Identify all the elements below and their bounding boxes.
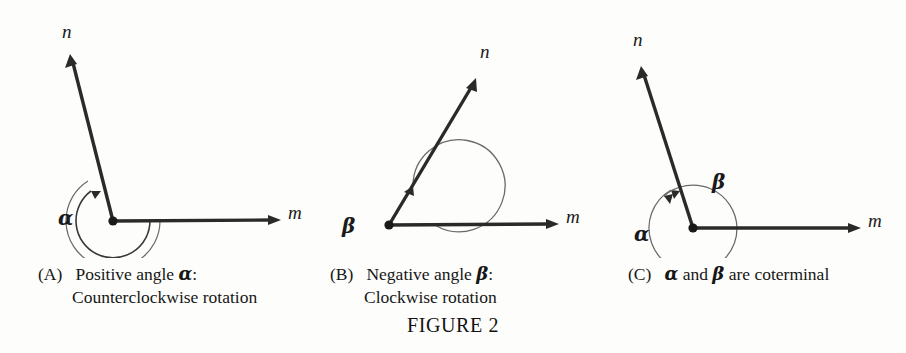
caption-c: (C) α and β are coterminal bbox=[628, 262, 829, 286]
ray-n-line bbox=[644, 75, 693, 228]
caption-b-text-post: : bbox=[488, 264, 493, 284]
caption-a-greek: α bbox=[178, 263, 192, 284]
caption-b-tag: (B) bbox=[330, 264, 353, 284]
vertex-point bbox=[384, 220, 393, 229]
arc-arrowhead-alpha bbox=[91, 191, 101, 199]
angle-label-alpha: α bbox=[58, 208, 73, 228]
caption-c-greek-beta: β bbox=[712, 263, 724, 284]
caption-a-tag: (A) bbox=[38, 264, 62, 284]
ray-m-arrowhead bbox=[848, 223, 861, 233]
panel-a: n m α (A) Positive angle α: Counterclock… bbox=[0, 0, 302, 300]
caption-c-greek-alpha: α bbox=[664, 263, 678, 284]
caption-b-greek: β bbox=[476, 263, 488, 284]
angle-label-beta: β bbox=[712, 172, 725, 192]
ray-label-m: m bbox=[868, 211, 882, 230]
ray-m-line bbox=[389, 224, 551, 225]
caption-b-line2: Clockwise rotation bbox=[330, 286, 497, 309]
vertex-point bbox=[108, 216, 117, 225]
vertex-point bbox=[688, 223, 697, 232]
rotation-arc-beta bbox=[413, 140, 505, 232]
caption-a: (A) Positive angle α: Counterclockwise r… bbox=[38, 262, 257, 310]
ray-m-arrowhead bbox=[268, 215, 281, 225]
caption-a-text-pre: Positive angle bbox=[75, 264, 178, 284]
ray-n-line bbox=[73, 63, 113, 221]
angle-diagram-a bbox=[0, 0, 302, 258]
panel-b: n m β (B) Negative angle β: Clockwise ro… bbox=[300, 0, 602, 300]
ray-n-line bbox=[389, 86, 472, 225]
caption-a-line2: Counterclockwise rotation bbox=[38, 286, 257, 309]
caption-c-text-post: are coterminal bbox=[724, 264, 829, 284]
angle-diagram-c bbox=[600, 0, 902, 258]
angle-label-beta: β bbox=[342, 216, 355, 236]
figure-title: FIGURE 2 bbox=[0, 314, 906, 337]
angle-label-alpha: α bbox=[634, 224, 649, 244]
ray-m-line bbox=[113, 220, 273, 221]
panel-c: n m α β (C) α and β are coterminal bbox=[600, 0, 902, 300]
caption-b-text-pre: Negative angle bbox=[366, 264, 476, 284]
caption-c-tag: (C) bbox=[628, 264, 651, 284]
ray-label-n: n bbox=[480, 42, 490, 61]
ray-label-n: n bbox=[633, 30, 643, 49]
ray-n-arrowhead bbox=[466, 78, 477, 92]
ray-m-arrowhead bbox=[546, 219, 559, 229]
figure-container: n m α (A) Positive angle α: Counterclock… bbox=[0, 0, 906, 353]
caption-b: (B) Negative angle β: Clockwise rotation bbox=[330, 262, 497, 310]
caption-c-text-mid: and bbox=[678, 264, 712, 284]
caption-a-text-post: : bbox=[192, 264, 197, 284]
ray-label-m: m bbox=[566, 207, 580, 226]
ray-label-n: n bbox=[62, 22, 72, 41]
